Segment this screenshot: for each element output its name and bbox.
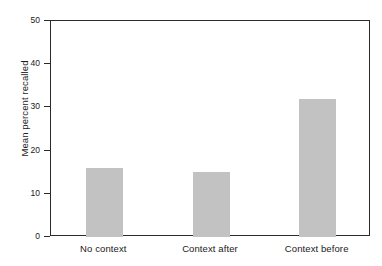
y-axis-tick-label: 30 bbox=[16, 102, 40, 111]
y-axis-tick-label: 40 bbox=[16, 59, 40, 68]
plot-area bbox=[50, 20, 370, 236]
y-axis-tick-label: 20 bbox=[16, 145, 40, 154]
x-axis-tick-label: Context after bbox=[150, 243, 270, 254]
y-axis-tick-label: 0 bbox=[16, 232, 40, 241]
y-axis-tick-label: 50 bbox=[16, 16, 40, 25]
bar bbox=[86, 168, 123, 237]
x-axis-tick-label: No context bbox=[43, 243, 163, 254]
bar bbox=[299, 99, 336, 237]
y-axis-tick bbox=[44, 236, 50, 237]
bar bbox=[193, 172, 230, 237]
bar-chart-figure: Mean percent recalled 01020304050 No con… bbox=[0, 0, 382, 266]
y-axis-tick-label: 10 bbox=[16, 189, 40, 198]
x-axis-tick-label: Context before bbox=[257, 243, 377, 254]
